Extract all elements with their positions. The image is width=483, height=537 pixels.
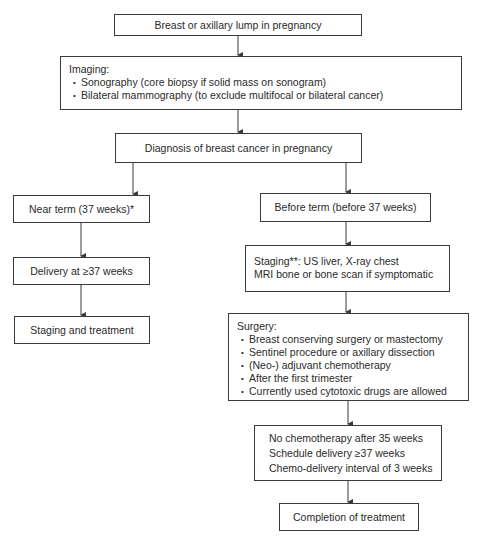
diagnosis-label: Diagnosis of breast cancer in pregnancy — [145, 142, 332, 155]
surgery-item: Currently used cytotoxic drugs are allow… — [241, 385, 460, 398]
staging-line: MRI bone or bone scan if symptomatic — [254, 268, 441, 281]
timing-node: No chemotherapy after 35 weeks Schedule … — [254, 425, 442, 481]
start-node: Breast or axillary lump in pregnancy — [114, 14, 362, 36]
imaging-item: Bilateral mammography (to exclude multif… — [73, 89, 453, 102]
completion-node: Completion of treatment — [279, 503, 419, 531]
surgery-node: Surgery: Breast conserving surgery or ma… — [228, 313, 469, 401]
before-term-label: Before term (before 37 weeks) — [275, 201, 417, 214]
completion-label: Completion of treatment — [293, 511, 405, 524]
timing-line: No chemotherapy after 35 weeks — [269, 431, 441, 446]
imaging-list: Sonography (core biopsy if solid mass on… — [69, 76, 453, 102]
start-node-label: Breast or axillary lump in pregnancy — [155, 19, 322, 32]
surgery-item: After the first trimester — [241, 372, 460, 385]
surgery-item: Sentinel procedure or axillary dissectio… — [241, 346, 460, 359]
timing-lines: No chemotherapy after 35 weeks Schedule … — [269, 431, 441, 476]
before-term-node: Before term (before 37 weeks) — [260, 193, 431, 222]
delivery-label: Delivery at ≥37 weeks — [30, 265, 133, 278]
timing-line: Chemo-delivery interval of 3 weeks — [269, 461, 441, 476]
delivery-node: Delivery at ≥37 weeks — [13, 257, 150, 285]
staging-line: Staging**: US liver, X-ray chest — [254, 255, 441, 268]
staging-node: Staging**: US liver, X-ray chest MRI bon… — [245, 245, 450, 292]
surgery-title: Surgery: — [237, 320, 460, 333]
diagnosis-node: Diagnosis of breast cancer in pregnancy — [115, 133, 362, 163]
surgery-item: (Neo-) adjuvant chemotherapy — [241, 359, 460, 372]
timing-line: Schedule delivery ≥37 weeks — [269, 446, 441, 461]
staging-treatment-label: Staging and treatment — [30, 324, 133, 337]
near-term-node: Near term (37 weeks)* — [13, 195, 150, 223]
near-term-label: Near term (37 weeks)* — [29, 203, 134, 216]
surgery-list: Breast conserving surgery or mastectomy … — [237, 333, 460, 398]
staging-treatment-node: Staging and treatment — [14, 316, 150, 344]
imaging-item: Sonography (core biopsy if solid mass on… — [73, 76, 453, 89]
staging-lines: Staging**: US liver, X-ray chest MRI bon… — [254, 255, 441, 281]
imaging-title: Imaging: — [69, 63, 453, 76]
surgery-item: Breast conserving surgery or mastectomy — [241, 333, 460, 346]
imaging-node: Imaging: Sonography (core biopsy if soli… — [60, 56, 462, 110]
